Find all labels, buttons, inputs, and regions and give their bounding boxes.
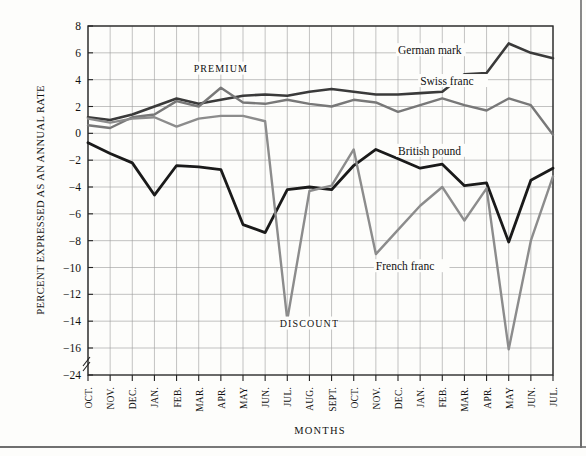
x-tick-label: JUN. xyxy=(261,387,271,408)
x-tick-label: APR. xyxy=(483,387,493,409)
y-tick-label: 2 xyxy=(75,101,81,113)
zone-label-discount: DISCOUNT xyxy=(280,318,339,329)
x-tick-label: JUN. xyxy=(527,387,537,408)
series-label-swiss-franc: Swiss franc xyxy=(420,75,473,87)
x-tick-label: OCT. xyxy=(84,387,94,408)
x-axis-title: MONTHS xyxy=(294,425,346,436)
series-layer xyxy=(88,43,553,349)
annual-rate-line-chart: 86420−2−4−6−8−10−12−14−16−24 OCT.NOV.DEC… xyxy=(0,0,586,456)
x-tick-label: MAY xyxy=(239,387,249,409)
y-tick-label: 4 xyxy=(75,74,81,86)
x-tick-label: SEPT. xyxy=(328,387,338,412)
x-tick-label: FEB. xyxy=(173,387,183,408)
y-tick-label: −4 xyxy=(69,181,81,193)
x-tick-label: DEC. xyxy=(394,387,404,409)
x-tick-label: JUL. xyxy=(283,387,293,407)
x-tick-label: APR. xyxy=(217,387,227,409)
x-tick-label: DEC. xyxy=(128,387,138,409)
zone-label-premium: PREMIUM xyxy=(194,63,248,74)
series-line-french-franc xyxy=(88,116,553,349)
x-tick-label: MAR. xyxy=(460,387,470,412)
x-tick-label: MAY xyxy=(505,387,515,409)
page-frame-right xyxy=(580,0,582,448)
x-axis-ticks: OCT.NOV.DEC.JAN.FEB.MAR.APR.MAYJUN.JUL.A… xyxy=(84,375,559,412)
y-tick-label: 8 xyxy=(75,20,81,32)
y-tick-label: −16 xyxy=(63,342,81,354)
x-tick-label: JAN. xyxy=(416,387,426,408)
x-tick-label: AUG. xyxy=(305,387,315,411)
y-tick-label: −24 xyxy=(63,369,81,381)
annotations-layer: German markSwiss francBritish poundFrenc… xyxy=(194,43,488,329)
x-tick-label: NOV. xyxy=(106,387,116,410)
series-label-british-pound: British pound xyxy=(398,145,461,158)
x-tick-label: FEB. xyxy=(438,387,448,408)
x-tick-label: JAN. xyxy=(150,387,160,408)
series-label-french-franc: French franc xyxy=(376,260,434,272)
y-axis-title: PERCENT EXPRESSED AS AN ANNUAL RATE xyxy=(35,85,46,315)
x-tick-label: MAR. xyxy=(195,387,205,412)
y-axis-break-mark xyxy=(83,357,90,371)
y-tick-label: −10 xyxy=(63,262,81,274)
y-tick-label: −8 xyxy=(69,235,81,247)
y-tick-label: −2 xyxy=(69,154,81,166)
page-frame-bottom xyxy=(0,446,586,448)
y-tick-label: −12 xyxy=(63,288,81,300)
y-tick-label: −6 xyxy=(69,208,81,220)
y-tick-label: 6 xyxy=(75,47,81,59)
series-label-german-mark: German mark xyxy=(398,44,462,56)
chart-page: 86420−2−4−6−8−10−12−14−16−24 OCT.NOV.DEC… xyxy=(0,0,586,456)
x-tick-label: JUL. xyxy=(549,387,559,407)
y-tick-label: −14 xyxy=(63,315,81,327)
series-line-swiss-franc xyxy=(88,88,553,135)
x-tick-label: OCT. xyxy=(350,387,360,408)
x-tick-label: NOV. xyxy=(372,387,382,410)
y-tick-label: 0 xyxy=(75,127,81,139)
